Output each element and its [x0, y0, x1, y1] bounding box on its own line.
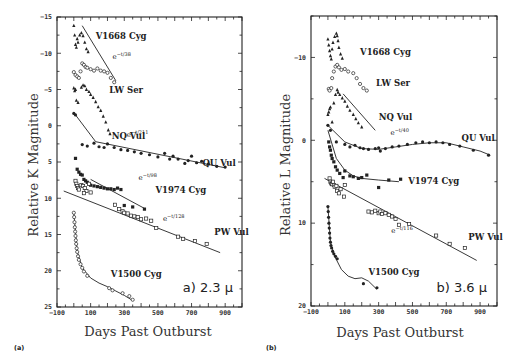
data-point: [343, 99, 346, 102]
data-point: [367, 210, 370, 213]
data-point: [81, 173, 84, 176]
data-point: [463, 246, 466, 249]
data-point: [79, 263, 82, 266]
data-point: [336, 88, 339, 91]
data-point: [131, 298, 134, 301]
decay-fit-label: e−t/38: [113, 51, 131, 61]
y-tick-label: 10: [298, 219, 306, 227]
data-point: [193, 239, 196, 242]
series-qu-vul: QU Vul: [326, 124, 495, 157]
data-point: [339, 52, 342, 55]
data-point: [384, 212, 387, 215]
series-label: V1668 Cyg: [95, 31, 147, 41]
data-point: [136, 216, 139, 219]
data-point: [332, 160, 335, 163]
data-point: [360, 176, 363, 179]
data-point: [358, 82, 361, 85]
data-point: [329, 241, 332, 244]
data-point: [75, 45, 78, 48]
x-tick-label: 300: [373, 308, 385, 316]
data-point: [352, 175, 355, 178]
data-point: [190, 155, 193, 158]
data-point: [358, 146, 361, 149]
data-point: [387, 213, 390, 216]
data-point: [150, 219, 153, 222]
data-point: [330, 154, 333, 157]
data-point: [133, 150, 136, 153]
data-point: [328, 145, 331, 148]
data-point: [85, 88, 88, 91]
data-point: [336, 169, 339, 172]
data-point: [448, 143, 451, 146]
series-pw-vul: e−t/116PW Vul: [325, 177, 504, 261]
data-point: [362, 147, 365, 150]
data-point: [458, 144, 461, 147]
data-point: [123, 211, 126, 214]
data-point: [92, 69, 95, 72]
y-tick-label: 25: [44, 303, 52, 311]
data-point: [145, 217, 148, 220]
data-point: [377, 186, 380, 189]
data-point: [106, 187, 109, 190]
data-point: [81, 266, 84, 269]
series-label: V1500 Cyg: [367, 267, 419, 277]
data-point: [195, 161, 198, 164]
data-point: [74, 43, 77, 46]
data-point: [106, 142, 109, 145]
panel-b-tag: (b): [266, 344, 277, 352]
data-point: [336, 39, 339, 42]
data-point: [337, 45, 340, 48]
data-point: [370, 211, 373, 214]
data-point: [334, 93, 337, 96]
data-point: [407, 222, 410, 225]
y-tick-label: 0: [48, 122, 52, 130]
data-point: [379, 149, 382, 152]
data-point: [330, 57, 333, 60]
data-point: [126, 149, 129, 152]
data-point: [337, 192, 340, 195]
y-tick-label: −15: [40, 13, 52, 21]
data-point: [107, 128, 110, 131]
panel-a-x-axis-title: Days Past Outburst: [84, 324, 212, 339]
data-point: [328, 236, 331, 239]
data-point: [329, 129, 332, 132]
data-point: [487, 154, 490, 157]
data-point: [96, 67, 99, 70]
series-nq-vul: NQ Vul: [326, 88, 413, 129]
data-point: [327, 110, 330, 113]
data-point: [81, 143, 84, 146]
data-point: [343, 143, 346, 146]
data-point: [156, 155, 159, 158]
series-label: PW Vul: [468, 232, 503, 242]
data-point: [106, 71, 109, 74]
data-point: [121, 292, 124, 295]
data-point: [104, 120, 107, 123]
data-point: [326, 37, 329, 40]
data-point: [163, 152, 166, 155]
data-point: [374, 147, 377, 150]
data-point: [348, 145, 351, 148]
data-point: [96, 185, 99, 188]
data-point: [79, 70, 82, 73]
series-label: V1974 Cyg: [154, 185, 206, 195]
data-point: [331, 180, 334, 183]
data-point: [109, 187, 112, 190]
data-point: [365, 173, 368, 176]
data-point: [75, 242, 78, 245]
data-point: [74, 234, 77, 237]
data-point: [102, 187, 105, 190]
data-point: [327, 43, 330, 46]
data-point: [176, 235, 179, 238]
data-point: [128, 295, 131, 298]
y-tick-label: −10: [40, 50, 52, 58]
data-point: [168, 158, 171, 161]
data-point: [414, 141, 417, 144]
fit-line: [325, 178, 477, 260]
panel-a-y-axis-title: Relative K Magnitude: [26, 93, 41, 237]
data-point: [148, 153, 151, 156]
x-tick-label: 100: [339, 308, 351, 316]
data-point: [102, 114, 105, 117]
data-point: [329, 105, 332, 108]
data-point: [326, 124, 329, 127]
data-point: [76, 255, 79, 258]
